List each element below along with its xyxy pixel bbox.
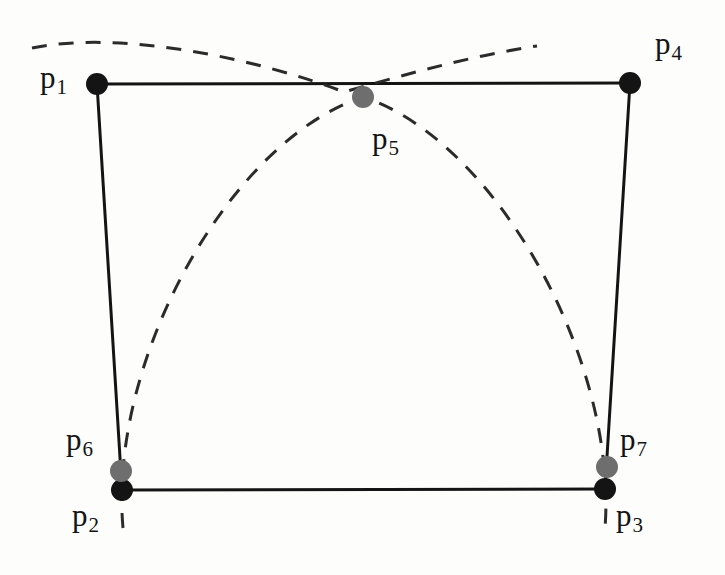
label-p4-base: p: [655, 26, 671, 61]
vertex-p6[interactable]: [110, 460, 132, 482]
vertex-p7[interactable]: [596, 456, 618, 478]
label-p4: p4: [655, 28, 681, 59]
arc-dome-p2-p5-p3: [122, 97, 606, 528]
vertices-group: [86, 72, 641, 501]
label-p7-subscript: 7: [637, 437, 648, 461]
vertex-p5[interactable]: [352, 86, 374, 108]
label-p7: p7: [620, 424, 646, 455]
label-p6-subscript: 6: [83, 437, 94, 461]
label-p2: p2: [72, 500, 98, 531]
vertex-p2[interactable]: [111, 479, 133, 501]
label-p2-base: p: [72, 498, 88, 533]
label-p1: p1: [40, 62, 66, 93]
label-p6-base: p: [66, 422, 82, 457]
edge-p1-p2: [97, 84, 122, 490]
label-p5: p5: [372, 123, 398, 154]
label-p2-subscript: 2: [89, 513, 100, 537]
edge-p1-p4: [97, 83, 630, 84]
label-p5-subscript: 5: [389, 136, 400, 160]
label-p3: p3: [616, 500, 642, 531]
vertex-p3[interactable]: [594, 478, 616, 500]
label-p4-subscript: 4: [672, 41, 683, 65]
label-p3-base: p: [616, 498, 632, 533]
label-p1-subscript: 1: [57, 75, 68, 99]
edge-p2-p3: [122, 489, 605, 490]
label-p5-base: p: [372, 121, 388, 156]
figure-canvas: p1p2p3p4p5p6p7: [0, 0, 725, 575]
geometry-svg: [0, 0, 725, 575]
label-p3-subscript: 3: [633, 513, 644, 537]
label-p6: p6: [66, 424, 92, 455]
dashed-arcs-group: [32, 42, 606, 528]
label-p1-base: p: [40, 60, 56, 95]
vertex-p1[interactable]: [86, 73, 108, 95]
vertex-p4[interactable]: [619, 72, 641, 94]
label-p7-base: p: [620, 422, 636, 457]
